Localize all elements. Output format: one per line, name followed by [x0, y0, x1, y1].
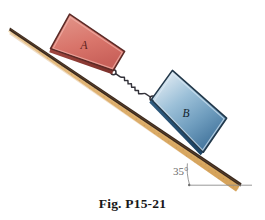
- angle-vertex-dot: [188, 184, 190, 186]
- block-b: B: [149, 70, 226, 155]
- block-b-label: B: [183, 107, 190, 119]
- spring-lead-a: [116, 74, 121, 78]
- figure-p15-21: A B 35° Fig. P15-21: [0, 0, 265, 220]
- spring-coils: [121, 77, 145, 94]
- block-a-label: A: [80, 39, 89, 51]
- figure-illustration: A B 35°: [0, 0, 265, 220]
- figure-caption: Fig. P15-21: [0, 196, 265, 212]
- angle-label: 35°: [173, 165, 188, 177]
- spring-lead-b: [145, 93, 150, 97]
- spring-connector: [111, 70, 155, 101]
